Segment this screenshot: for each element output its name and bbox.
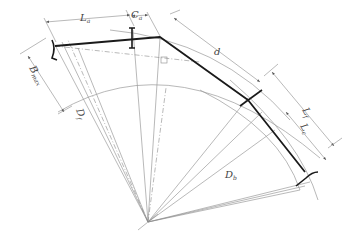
label-Ca: Ca (131, 9, 143, 21)
label-d: d (214, 46, 220, 57)
label-La: La (79, 12, 91, 24)
label-Db: Db (224, 169, 237, 181)
label-Bmax: Bmax (26, 63, 47, 88)
geometry-diagram: La Ca d Lf Lc Bmax Df Db (0, 0, 351, 238)
label-Lc: Lc (297, 121, 313, 137)
label-Df: Df (72, 106, 89, 123)
label-Lf: Lf (298, 105, 315, 122)
tooth-profile (55, 37, 305, 172)
arcs (58, 30, 320, 200)
